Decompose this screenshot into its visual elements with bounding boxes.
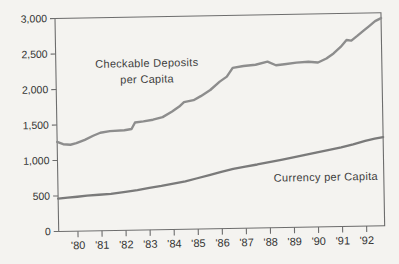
annotation-line-2: per Capita <box>89 70 205 88</box>
x-tick-label: '87 <box>239 236 254 248</box>
x-tick-label: '84 <box>167 237 182 249</box>
annotation-line-1: Checkable Deposits <box>89 54 205 72</box>
x-tick-label: '82 <box>119 238 134 250</box>
x-tick-label: '90 <box>311 235 326 247</box>
y-tick-label: 2,000 <box>22 83 49 95</box>
series-label-currency: Currency per Capita <box>264 168 388 186</box>
y-tick-label: 500 <box>32 190 50 202</box>
x-tick-label: '85 <box>191 237 206 249</box>
line-chart: 05001,0001,5002,0002,5003,000'80'81'82'8… <box>0 0 399 264</box>
x-tick-label: '91 <box>336 234 351 246</box>
y-tick-label: 1,500 <box>22 119 49 131</box>
scanned-figure: 05001,0001,5002,0002,5003,000'80'81'82'8… <box>0 0 399 264</box>
x-tick-label: '92 <box>360 234 375 246</box>
plot-frame <box>55 13 385 232</box>
y-tick-label: 0 <box>45 225 51 237</box>
x-tick-label: '80 <box>71 239 86 251</box>
series-label-checkable-deposits: Checkable Deposits per Capita <box>89 54 206 88</box>
x-tick-label: '81 <box>95 239 110 251</box>
x-tick-label: '88 <box>263 236 278 248</box>
y-tick-label: 1,000 <box>23 154 50 166</box>
annotation-line-1: Currency per Capita <box>264 168 388 186</box>
y-tick-label: 2,500 <box>21 48 48 60</box>
y-tick-label: 3,000 <box>21 12 48 24</box>
x-tick-label: '86 <box>215 236 230 248</box>
x-tick-label: '89 <box>287 235 302 247</box>
chart-tilt-wrapper: 05001,0001,5002,0002,5003,000'80'81'82'8… <box>0 0 399 264</box>
x-tick-label: '83 <box>143 238 158 250</box>
